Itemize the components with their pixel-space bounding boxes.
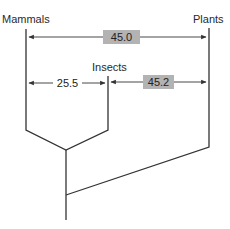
phylogenetic-tree-diagram: Mammals Insects Plants 45.0 25.5 45.2 [0,0,230,229]
taxon-label-insects: Insects [92,61,127,73]
branch-mammals-insects [26,29,108,150]
distance-value: 45.0 [111,31,132,43]
distance-mammals-plants: 45.0 [29,30,206,44]
distance-value: 25.5 [57,77,78,89]
branch-plants [66,28,209,195]
distance-mammals-insects: 25.5 [29,77,105,89]
distance-insects-plants: 45.2 [111,75,206,89]
tree-branches [26,28,209,220]
distance-value: 45.2 [148,76,169,88]
taxon-label-mammals: Mammals [2,13,50,25]
taxon-label-plants: Plants [193,13,224,25]
